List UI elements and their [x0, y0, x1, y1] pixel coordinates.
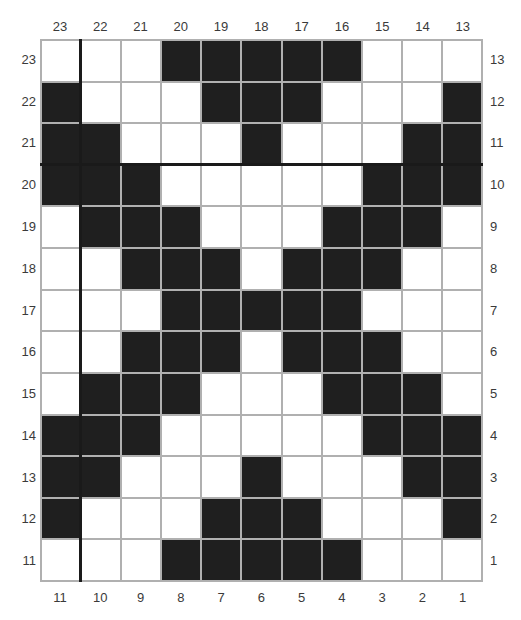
empty-cell — [162, 83, 200, 123]
top-column-label: 15 — [362, 19, 402, 34]
empty-cell — [42, 332, 80, 372]
empty-cell — [323, 499, 361, 539]
empty-cell — [122, 540, 160, 580]
filled-cell — [403, 166, 441, 206]
filled-cell — [283, 41, 321, 81]
empty-cell — [242, 374, 280, 414]
horizontal-marker-line — [40, 163, 483, 166]
right-row-label: 12 — [490, 94, 514, 109]
filled-cell — [202, 41, 240, 81]
filled-cell — [283, 540, 321, 580]
filled-cell — [363, 416, 401, 456]
filled-cell — [323, 41, 361, 81]
top-column-label: 13 — [443, 19, 483, 34]
filled-cell — [122, 207, 160, 247]
right-row-label: 4 — [490, 428, 514, 443]
filled-cell — [403, 457, 441, 497]
right-row-label: 10 — [490, 177, 514, 192]
filled-cell — [82, 166, 120, 206]
right-row-label: 11 — [490, 135, 514, 150]
empty-cell — [202, 457, 240, 497]
empty-cell — [363, 41, 401, 81]
empty-cell — [403, 499, 441, 539]
filled-cell — [403, 416, 441, 456]
empty-cell — [403, 249, 441, 289]
chart-grid — [40, 39, 483, 582]
filled-cell — [202, 540, 240, 580]
empty-cell — [242, 207, 280, 247]
left-row-label: 23 — [0, 52, 36, 67]
filled-cell — [202, 249, 240, 289]
filled-cell — [82, 207, 120, 247]
empty-cell — [403, 41, 441, 81]
empty-cell — [202, 207, 240, 247]
filled-cell — [323, 249, 361, 289]
filled-cell — [82, 124, 120, 164]
empty-cell — [363, 124, 401, 164]
empty-cell — [323, 416, 361, 456]
filled-cell — [242, 291, 280, 331]
filled-cell — [162, 249, 200, 289]
filled-cell — [122, 374, 160, 414]
empty-cell — [202, 124, 240, 164]
filled-cell — [162, 207, 200, 247]
empty-cell — [283, 207, 321, 247]
empty-cell — [162, 416, 200, 456]
empty-cell — [82, 249, 120, 289]
left-row-label: 21 — [0, 135, 36, 150]
filled-cell — [242, 457, 280, 497]
filled-cell — [42, 499, 80, 539]
filled-cell — [363, 166, 401, 206]
filled-cell — [283, 291, 321, 331]
empty-cell — [42, 540, 80, 580]
empty-cell — [363, 540, 401, 580]
empty-cell — [283, 166, 321, 206]
filled-cell — [202, 83, 240, 123]
filled-cell — [122, 416, 160, 456]
bottom-column-label: 9 — [121, 590, 161, 605]
bottom-column-label: 11 — [40, 590, 80, 605]
empty-cell — [82, 41, 120, 81]
left-row-label: 12 — [0, 511, 36, 526]
empty-cell — [242, 249, 280, 289]
empty-cell — [42, 207, 80, 247]
empty-cell — [122, 124, 160, 164]
filled-cell — [202, 332, 240, 372]
empty-cell — [363, 457, 401, 497]
filled-cell — [443, 166, 481, 206]
filled-cell — [42, 166, 80, 206]
bottom-column-label: 2 — [402, 590, 442, 605]
empty-cell — [122, 41, 160, 81]
empty-cell — [403, 540, 441, 580]
empty-cell — [162, 457, 200, 497]
empty-cell — [363, 499, 401, 539]
filled-cell — [82, 416, 120, 456]
filled-cell — [122, 332, 160, 372]
filled-cell — [403, 124, 441, 164]
filled-cell — [283, 332, 321, 372]
filled-cell — [443, 124, 481, 164]
empty-cell — [82, 332, 120, 372]
filled-cell — [443, 499, 481, 539]
filled-cell — [363, 249, 401, 289]
filled-cell — [82, 457, 120, 497]
empty-cell — [403, 332, 441, 372]
left-row-label: 18 — [0, 261, 36, 276]
filled-cell — [443, 457, 481, 497]
filled-cell — [242, 499, 280, 539]
left-row-label: 11 — [0, 553, 36, 568]
empty-cell — [443, 291, 481, 331]
empty-cell — [42, 249, 80, 289]
filled-cell — [162, 291, 200, 331]
filled-cell — [363, 332, 401, 372]
filled-cell — [283, 249, 321, 289]
empty-cell — [283, 124, 321, 164]
right-row-label: 2 — [490, 511, 514, 526]
filled-cell — [323, 207, 361, 247]
top-column-label: 19 — [201, 19, 241, 34]
empty-cell — [122, 457, 160, 497]
empty-cell — [82, 291, 120, 331]
empty-cell — [323, 83, 361, 123]
empty-cell — [323, 166, 361, 206]
left-row-label: 13 — [0, 470, 36, 485]
